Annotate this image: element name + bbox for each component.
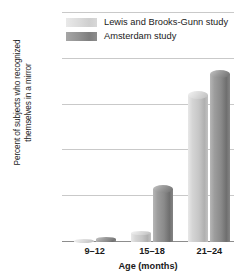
y-axis-title: Percent of subjects who recognized thems…: [13, 18, 34, 188]
legend-item-0: Lewis and Brooks-Gunn study: [66, 17, 236, 28]
bar-cap: [153, 185, 173, 193]
bar-0-1: [131, 231, 151, 242]
x-tick-label-2: 21–24: [179, 247, 237, 256]
legend-item-1: Amsterdam study: [66, 31, 236, 42]
bar-cap: [74, 239, 94, 243]
plot-area: 020406080100: [62, 13, 234, 242]
bar-body: [210, 74, 230, 242]
x-tick-label-0: 9–12: [65, 247, 125, 256]
gridline-100: [62, 12, 234, 13]
bar-0-2: [188, 91, 208, 242]
legend: Lewis and Brooks-Gunn study Amsterdam st…: [66, 17, 236, 45]
bar-body: [188, 95, 208, 242]
x-tick-label-1: 15–18: [122, 247, 182, 256]
bar-1-2: [210, 70, 230, 242]
bar-1-0: [96, 237, 116, 242]
bar-cap: [131, 231, 151, 235]
legend-swatch-icon-1: [66, 32, 97, 41]
bar-chart: Percent of subjects who recognized thems…: [0, 0, 237, 277]
legend-swatch-icon-0: [66, 18, 97, 27]
y-axis-title-line1: Percent of subjects who recognized: [13, 18, 24, 188]
bar-body: [153, 189, 173, 242]
gridline-80: [62, 58, 234, 59]
legend-label-0: Lewis and Brooks-Gunn study: [104, 18, 228, 27]
legend-label-1: Amsterdam study: [104, 32, 176, 41]
bar-cap: [188, 91, 208, 99]
bar-1-1: [153, 185, 173, 242]
bar-0-0: [74, 239, 94, 242]
x-axis-title: Age (months): [62, 262, 234, 271]
y-axis-title-line2: themselves in a mirror: [23, 18, 34, 188]
